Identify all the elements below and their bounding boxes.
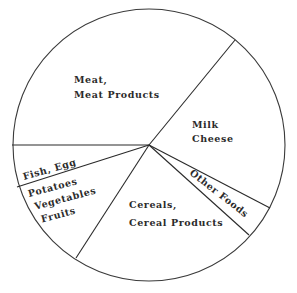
pie-chart: Meat, Meat Products Milk Cheese Other Fo… — [0, 0, 297, 293]
label-cereals-line2: Cereal Products — [129, 217, 223, 228]
label-milk-line1: Milk — [192, 119, 219, 130]
label-cereals-line1: Cereals, — [129, 199, 177, 211]
label-meat-line1: Meat, — [74, 74, 107, 86]
label-milk-line2: Cheese — [192, 133, 234, 144]
label-meat-line2: Meat Products — [74, 89, 160, 100]
